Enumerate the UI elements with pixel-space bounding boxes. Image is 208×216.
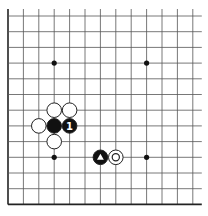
star-point-icon (52, 155, 57, 160)
star-point-icon (144, 61, 149, 66)
stones: 1 (32, 103, 124, 165)
black-stone-icon (47, 119, 62, 134)
white-stone (109, 150, 124, 165)
go-board: 1 (0, 0, 208, 216)
white-stone (47, 103, 62, 118)
board-grid (8, 9, 202, 204)
white-stone-icon (47, 103, 62, 118)
white-stone (32, 119, 47, 134)
white-stone-icon (109, 150, 124, 165)
black-stone (47, 119, 62, 134)
black-stone: 1 (62, 119, 77, 134)
white-stone-icon (32, 119, 47, 134)
white-stone-icon (47, 134, 62, 149)
white-stone (62, 103, 77, 118)
black-stone (93, 150, 108, 165)
move-number-label: 1 (66, 121, 73, 132)
white-stone-icon (62, 103, 77, 118)
star-point-icon (52, 61, 57, 66)
star-point-icon (144, 155, 149, 160)
white-stone (47, 134, 62, 149)
